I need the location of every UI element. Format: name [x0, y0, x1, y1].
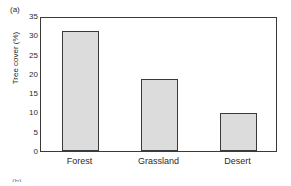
y-axis-tick-label: 10	[16, 109, 38, 117]
plot-frame	[40, 17, 277, 152]
y-axis-tick-label: 0	[16, 148, 38, 156]
next-panel-label: (b)	[12, 177, 22, 182]
figure-panel-a: (a) (b) Tree cover (%) 05101520253035 Fo…	[0, 0, 291, 186]
y-axis-tick-label: 20	[16, 71, 38, 79]
y-axis-tick-label: 35	[16, 13, 38, 21]
bar	[141, 79, 178, 152]
bar	[62, 31, 99, 151]
bar	[220, 113, 257, 151]
y-axis-tick-label: 5	[16, 129, 38, 137]
y-axis-tick-label: 15	[16, 90, 38, 98]
bars-layer	[41, 18, 276, 151]
y-axis-tick-label: 25	[16, 52, 38, 60]
x-axis-category-label: Forest	[40, 156, 119, 167]
x-axis-category-label: Grassland	[119, 156, 198, 167]
x-axis-category-label: Desert	[198, 156, 277, 167]
y-axis-tick-label: 30	[16, 32, 38, 40]
